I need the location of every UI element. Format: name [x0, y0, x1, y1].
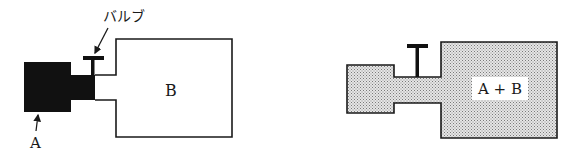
container-a [24, 62, 71, 112]
after-diagram: A + B [347, 42, 557, 138]
container-b [95, 39, 232, 137]
valve-icon [83, 56, 104, 76]
valve-icon [407, 44, 428, 77]
diagram-canvas: バルブ B A A + B [0, 0, 571, 159]
container-a-neck [70, 75, 95, 100]
mixed-label: A + B [477, 80, 522, 98]
container-b-label: B [165, 81, 177, 100]
valve-label: バルブ [103, 8, 145, 24]
valve-pointer-arrow [95, 28, 108, 53]
container-a-pointer-arrow [36, 115, 38, 131]
container-a-label: A [29, 134, 41, 152]
before-diagram: バルブ B A [24, 8, 232, 152]
